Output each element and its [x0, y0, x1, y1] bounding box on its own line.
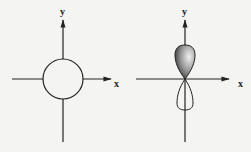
s-orbital-circle — [43, 59, 83, 99]
y-axis-label: y — [60, 6, 65, 17]
orbital-diagrams: y x y x — [0, 0, 251, 152]
x-axis-label: x — [238, 78, 243, 89]
s-orbital-diagram: y x — [12, 6, 119, 142]
y-axis-label: y — [182, 6, 187, 17]
upper-lobe-shaded — [175, 45, 195, 79]
p-orbital-diagram: y x — [136, 6, 243, 142]
x-axis-label: x — [114, 78, 119, 89]
